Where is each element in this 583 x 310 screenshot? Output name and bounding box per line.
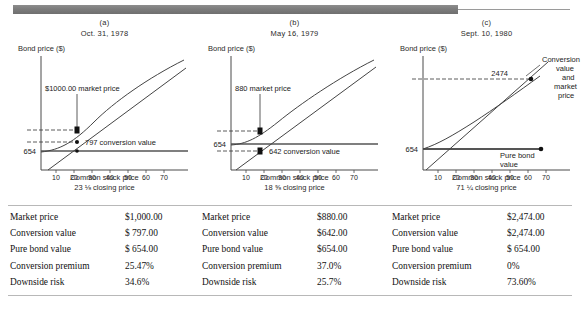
row-key: Conversion value xyxy=(202,225,268,241)
row-key: Downside risk xyxy=(392,274,446,290)
pure-bond-annotation-line2-c: value xyxy=(500,160,518,169)
row-key: Pure bond value xyxy=(202,241,263,257)
market-price-marker-b xyxy=(258,128,263,135)
market-price-annotation-b: 880 market price xyxy=(235,84,291,93)
combined-annotation-line2-c: value xyxy=(556,64,574,73)
panel-date-b: May 16, 1979 xyxy=(198,29,391,38)
table-row: Market price $2,474.00 xyxy=(392,209,582,225)
table-row: Conversion premium 25.47% xyxy=(10,258,200,274)
table-row: Pure bond value $654.00 xyxy=(202,241,392,257)
x-axis-label-c: Common stock price xyxy=(390,173,583,182)
pure-bond-endpoint-marker-c xyxy=(539,147,544,152)
panel-date-c: Sept. 10, 1980 xyxy=(390,29,583,38)
summary-table-c: Market price $2,474.00 Conversion value … xyxy=(392,209,582,293)
x-axis-sublabel-b: 18 ⅝ closing price xyxy=(198,183,391,192)
table-row: Downside risk 73.60% xyxy=(392,274,582,290)
x-axis-label-a: Common stock price xyxy=(8,173,201,182)
market-price-curve-c xyxy=(423,76,540,149)
row-key: Pure bond value xyxy=(10,241,71,257)
row-value: 25.47% xyxy=(125,258,154,274)
row-value: 25.7% xyxy=(317,274,341,290)
row-key: Downside risk xyxy=(202,274,256,290)
row-value: $2,474.00 xyxy=(507,209,545,225)
row-value: $654.00 xyxy=(317,241,347,257)
row-value: 34.6% xyxy=(125,274,149,290)
row-value: $ 797.00 xyxy=(125,225,158,241)
plot-area-c: 654 2474 Conversion value and market pri… xyxy=(390,52,583,182)
header-rule-bar xyxy=(13,5,458,14)
market-price-curve-b xyxy=(231,60,374,145)
table-row: Downside risk 34.6% xyxy=(10,274,200,290)
row-key: Market price xyxy=(10,209,58,225)
y-tick-654-c: 654 xyxy=(405,145,418,154)
row-key: Conversion premium xyxy=(202,258,281,274)
row-value: $880.00 xyxy=(317,209,347,225)
market-price-marker-a xyxy=(75,127,80,134)
row-value: $2,474.00 xyxy=(507,225,545,241)
table-row: Conversion premium 0% xyxy=(392,258,582,274)
panel-letter-a: (a) xyxy=(8,18,201,27)
table-row: Conversion premium 37.0% xyxy=(202,258,392,274)
peak-marker-c xyxy=(529,77,534,82)
summary-table-a: Market price $1,000.00 Conversion value … xyxy=(10,209,200,293)
x-axis-sublabel-c: 71 ¼ closing price xyxy=(390,183,583,192)
plot-area-b: 654 880 market price 642 conversion valu… xyxy=(198,52,391,182)
panel-letter-b: (b) xyxy=(198,18,391,27)
combined-annotation-line3-c: and xyxy=(562,73,575,82)
chart-panel-a: (a) Oct. 31, 1978 Bond price ($) xyxy=(8,18,201,208)
y-tick-654-b: 654 xyxy=(213,140,226,149)
panel-date-a: Oct. 31, 1978 xyxy=(8,29,201,38)
panel-letter-c: (c) xyxy=(390,18,583,27)
row-value: 37.0% xyxy=(317,258,341,274)
combined-annotation-line1-c: Conversion xyxy=(542,55,580,64)
table-row: Downside risk 25.7% xyxy=(202,274,392,290)
table-row: Conversion value $ 797.00 xyxy=(10,225,200,241)
conversion-value-annotation-a: 797 conversion value xyxy=(85,138,156,147)
pure-bond-annotation-line1-c: Pure bond xyxy=(500,151,535,160)
row-key: Conversion value xyxy=(10,225,76,241)
x-axis-sublabel-a: 23 ⅛ closing price xyxy=(8,183,201,192)
pure-bond-marker-a xyxy=(75,149,79,153)
chart-panel-b: (b) May 16, 1979 Bond price ($) 654 880 … xyxy=(198,18,391,208)
table-top-rule xyxy=(8,205,572,206)
peak-value-label-c: 2474 xyxy=(491,69,508,78)
row-key: Conversion premium xyxy=(10,258,89,274)
row-value: 73.60% xyxy=(507,274,536,290)
row-key: Downside risk xyxy=(10,274,64,290)
table-row: Conversion value $642.00 xyxy=(202,225,392,241)
x-axis-label-b: Common stock price xyxy=(198,173,391,182)
row-key: Conversion premium xyxy=(392,258,471,274)
row-value: $642.00 xyxy=(317,225,347,241)
table-row: Market price $1,000.00 xyxy=(10,209,200,225)
row-value: $ 654.00 xyxy=(507,241,540,257)
table-row: Market price $880.00 xyxy=(202,209,392,225)
summary-table-b: Market price $880.00 Conversion value $6… xyxy=(202,209,392,293)
row-value: 0% xyxy=(507,258,520,274)
plot-area-a: 654 $1000.00 market price 797 conversion… xyxy=(8,52,201,182)
table-bottom-rule xyxy=(8,295,572,296)
row-key: Conversion value xyxy=(392,225,458,241)
row-value: $1,000.00 xyxy=(125,209,163,225)
conversion-value-marker-a xyxy=(75,140,79,144)
chart-panel-c: (c) Sept. 10, 1980 Bond price ($) 654 24… xyxy=(390,18,583,208)
table-row: Conversion value $2,474.00 xyxy=(392,225,582,241)
row-key: Market price xyxy=(392,209,440,225)
combined-annotation-line4-c: market xyxy=(554,82,578,91)
market-price-annotation-a: $1000.00 market price xyxy=(45,84,120,93)
tables-row: Market price $1,000.00 Conversion value … xyxy=(0,209,580,293)
conversion-value-marker-b xyxy=(258,148,263,155)
header-rule-thin xyxy=(458,9,570,10)
table-row: Pure bond value $ 654.00 xyxy=(10,241,200,257)
conversion-value-annotation-b: 642 conversion value xyxy=(269,147,340,156)
row-value: $ 654.00 xyxy=(125,241,158,257)
charts-row: (a) Oct. 31, 1978 Bond price ($) xyxy=(0,18,580,208)
y-tick-654-a: 654 xyxy=(23,147,36,156)
table-row: Pure bond value $ 654.00 xyxy=(392,241,582,257)
combined-annotation-line5-c: price xyxy=(558,91,574,100)
row-key: Pure bond value xyxy=(392,241,453,257)
row-key: Market price xyxy=(202,209,250,225)
